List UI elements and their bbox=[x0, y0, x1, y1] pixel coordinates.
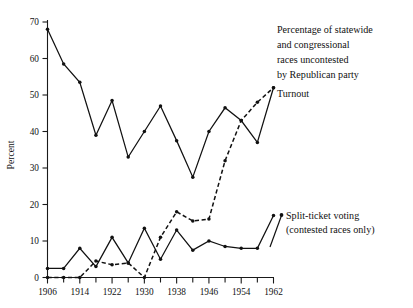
data-point bbox=[207, 239, 211, 243]
x-tick-label: 1914 bbox=[70, 287, 89, 297]
split-ticket-label-line-1: Split-ticket voting bbox=[286, 210, 359, 221]
data-point bbox=[159, 104, 163, 108]
y-tick-label: 60 bbox=[30, 54, 40, 64]
data-point bbox=[272, 214, 276, 218]
data-point bbox=[175, 228, 179, 232]
data-point bbox=[159, 236, 163, 240]
data-point bbox=[207, 130, 211, 134]
split-ticket-leader-dot bbox=[280, 213, 284, 217]
data-point bbox=[110, 263, 114, 267]
data-point bbox=[256, 247, 260, 251]
data-point bbox=[94, 265, 98, 269]
y-tick-label: 30 bbox=[30, 163, 40, 173]
y-tick-label: 10 bbox=[30, 236, 40, 246]
y-tick-label: 70 bbox=[30, 17, 40, 27]
y-axis-title: Percent bbox=[5, 140, 16, 169]
data-point bbox=[110, 236, 114, 240]
y-tick-label: 50 bbox=[30, 90, 40, 100]
x-tick-label: 1938 bbox=[167, 287, 186, 297]
x-tick-label: 1930 bbox=[135, 287, 154, 297]
data-point bbox=[94, 133, 98, 137]
data-point bbox=[256, 141, 260, 145]
data-point bbox=[62, 276, 66, 280]
data-point bbox=[110, 99, 114, 103]
uncontested-label-line-3: races uncontested bbox=[277, 54, 348, 65]
y-tick-label: 20 bbox=[30, 200, 40, 210]
data-point bbox=[126, 155, 130, 159]
data-point bbox=[46, 267, 50, 271]
data-point bbox=[62, 267, 66, 271]
data-point bbox=[223, 159, 227, 163]
data-point bbox=[143, 226, 147, 230]
data-point bbox=[78, 80, 82, 84]
data-point bbox=[78, 276, 82, 280]
data-point bbox=[175, 139, 179, 143]
data-point bbox=[272, 86, 276, 90]
line-chart: 010203040506070 Percent 1906191419221930… bbox=[0, 0, 413, 308]
data-point bbox=[78, 247, 82, 251]
split-ticket-label-line-2: (contested races only) bbox=[286, 224, 375, 236]
x-tick-label: 1962 bbox=[264, 287, 283, 297]
turnout-label: Turnout bbox=[277, 88, 309, 99]
data-point bbox=[191, 219, 195, 223]
uncontested-label-line-1: Percentage of statewide bbox=[277, 24, 373, 35]
data-point bbox=[239, 247, 243, 251]
uncontested-label-line-2: and congressional bbox=[277, 39, 350, 50]
data-point bbox=[159, 258, 163, 262]
y-tick-label: 40 bbox=[30, 127, 40, 137]
chart-figure: 010203040506070 Percent 1906191419221930… bbox=[0, 0, 413, 308]
data-point bbox=[191, 175, 195, 179]
y-tick-label: 0 bbox=[34, 273, 39, 283]
data-point bbox=[191, 248, 195, 252]
data-point bbox=[256, 101, 260, 105]
x-tick-label: 1954 bbox=[232, 287, 251, 297]
data-point bbox=[175, 210, 179, 214]
data-point bbox=[62, 62, 66, 66]
x-tick-label: 1906 bbox=[38, 287, 57, 297]
data-point bbox=[143, 130, 147, 134]
x-tick-label: 1946 bbox=[200, 287, 219, 297]
x-tick-label: 1922 bbox=[103, 287, 122, 297]
data-point bbox=[223, 245, 227, 249]
data-point bbox=[207, 217, 211, 221]
uncontested-label-line-4: by Republican party bbox=[277, 69, 359, 80]
data-point bbox=[239, 119, 243, 123]
data-point bbox=[94, 259, 98, 263]
chart-background bbox=[0, 0, 413, 308]
data-point bbox=[46, 28, 50, 32]
data-point bbox=[143, 276, 147, 280]
data-point bbox=[223, 106, 227, 110]
data-point bbox=[46, 276, 50, 280]
turnout-annotation: Turnout bbox=[277, 88, 309, 99]
data-point bbox=[126, 261, 130, 265]
